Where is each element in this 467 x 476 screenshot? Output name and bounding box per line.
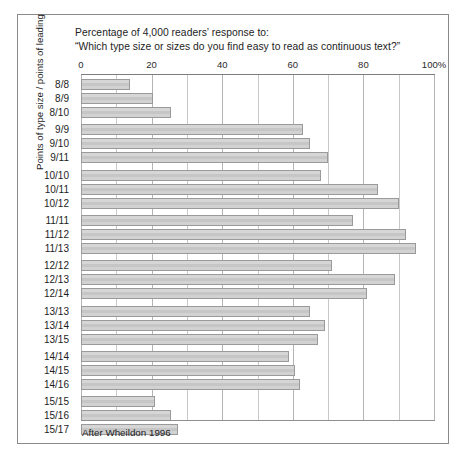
bar bbox=[81, 215, 353, 226]
bar bbox=[81, 184, 378, 195]
chart-title: Percentage of 4,000 readers’ response to… bbox=[75, 26, 441, 54]
bar-row bbox=[81, 93, 434, 104]
y-category-label: 14/16 bbox=[9, 379, 69, 390]
y-category-label: 8/10 bbox=[9, 107, 69, 118]
bar-row bbox=[81, 215, 434, 226]
y-category-label: 10/12 bbox=[9, 198, 69, 209]
bar-row bbox=[81, 170, 434, 181]
bar-row bbox=[81, 198, 434, 209]
bar bbox=[81, 138, 310, 149]
bar-row bbox=[81, 379, 434, 390]
plot-area: 8/88/98/109/99/109/1110/1010/1110/1211/1… bbox=[81, 75, 434, 420]
source-note: After Wheildon 1996 bbox=[82, 427, 171, 438]
x-tick-label: 0 bbox=[78, 59, 83, 70]
bar bbox=[81, 379, 300, 390]
bar-row bbox=[81, 306, 434, 317]
y-category-label: 13/15 bbox=[9, 334, 69, 345]
y-category-label: 12/13 bbox=[9, 274, 69, 285]
bar-row bbox=[81, 351, 434, 362]
y-category-label: 15/15 bbox=[9, 396, 69, 407]
bar bbox=[81, 274, 395, 285]
bar bbox=[81, 334, 318, 345]
bar-row bbox=[81, 107, 434, 118]
bar bbox=[81, 396, 155, 407]
y-category-label: 10/10 bbox=[9, 170, 69, 181]
y-category-label: 11/12 bbox=[9, 229, 69, 240]
chart-figure-frame: Percentage of 4,000 readers’ response to… bbox=[17, 14, 449, 444]
bar-row bbox=[81, 124, 434, 135]
y-category-label: 9/10 bbox=[9, 138, 69, 149]
y-category-label: 15/16 bbox=[9, 410, 69, 421]
y-category-label: 11/11 bbox=[9, 215, 69, 226]
y-axis-category-labels: 8/88/98/109/99/109/1110/1010/1110/1211/1… bbox=[15, 75, 75, 420]
y-category-label: 11/13 bbox=[9, 243, 69, 254]
bar-row bbox=[81, 288, 434, 299]
y-category-label: 9/9 bbox=[9, 124, 69, 135]
x-tick-label: 100% bbox=[422, 59, 446, 70]
x-tick-label: 20 bbox=[146, 59, 157, 70]
bar-row bbox=[81, 334, 434, 345]
bar bbox=[81, 288, 367, 299]
bar bbox=[81, 107, 171, 118]
bar-row bbox=[81, 184, 434, 195]
bar-row bbox=[81, 260, 434, 271]
y-category-label: 9/11 bbox=[9, 152, 69, 163]
y-category-label: 14/14 bbox=[9, 351, 69, 362]
bar-row bbox=[81, 229, 434, 240]
bar-row bbox=[81, 243, 434, 254]
y-category-label: 8/8 bbox=[9, 79, 69, 90]
y-category-label: 13/14 bbox=[9, 320, 69, 331]
bar-row bbox=[81, 138, 434, 149]
bar bbox=[81, 260, 332, 271]
bar bbox=[81, 365, 295, 376]
y-category-label: 12/12 bbox=[9, 260, 69, 271]
bar bbox=[81, 124, 303, 135]
x-axis-tick-labels: 020406080100% bbox=[81, 59, 434, 73]
plot-bottom-rule bbox=[81, 420, 435, 421]
bar-row bbox=[81, 396, 434, 407]
bar bbox=[81, 351, 289, 362]
gridline bbox=[434, 75, 435, 420]
y-category-label: 10/11 bbox=[9, 184, 69, 195]
bar-row bbox=[81, 79, 434, 90]
bar bbox=[81, 79, 130, 90]
bar bbox=[81, 320, 325, 331]
bar-row bbox=[81, 365, 434, 376]
chart-title-line-1: Percentage of 4,000 readers’ response to… bbox=[75, 26, 441, 40]
x-tick-label: 80 bbox=[358, 59, 369, 70]
y-category-label: 14/15 bbox=[9, 365, 69, 376]
chart-title-line-2: “Which type size or sizes do you find ea… bbox=[75, 40, 441, 54]
bar-row bbox=[81, 152, 434, 163]
y-category-label: 15/17 bbox=[9, 424, 69, 435]
y-category-label: 13/13 bbox=[9, 306, 69, 317]
bar bbox=[81, 306, 310, 317]
bar bbox=[81, 229, 406, 240]
bar-row bbox=[81, 274, 434, 285]
bar bbox=[81, 152, 328, 163]
bar bbox=[81, 243, 416, 254]
bar bbox=[81, 93, 153, 104]
bar bbox=[81, 198, 399, 209]
bar bbox=[81, 170, 321, 181]
y-category-label: 12/14 bbox=[9, 288, 69, 299]
x-tick-label: 60 bbox=[288, 59, 299, 70]
y-category-label: 8/9 bbox=[9, 93, 69, 104]
x-tick-label: 40 bbox=[217, 59, 228, 70]
bar-row bbox=[81, 320, 434, 331]
